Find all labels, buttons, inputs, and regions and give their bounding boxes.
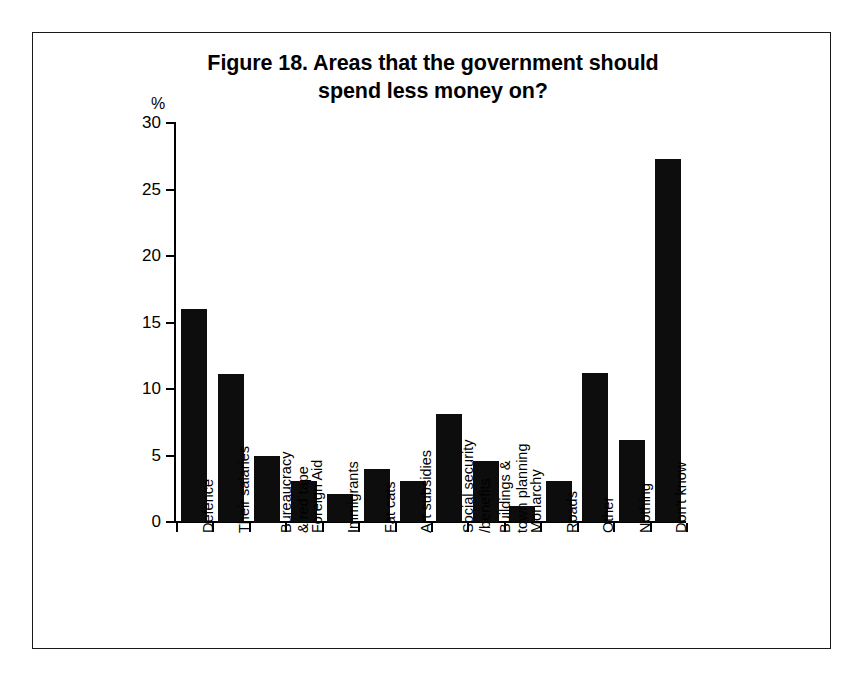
y-axis-tick-label: 5 xyxy=(117,447,161,464)
x-axis-category-label: Other xyxy=(600,497,617,533)
x-axis-category-label: Don't know xyxy=(673,462,690,533)
y-axis-tick-label: 25 xyxy=(117,181,161,198)
figure-frame: Figure 18. Areas that the government sho… xyxy=(32,32,831,649)
x-axis-tick xyxy=(176,523,178,532)
y-axis-tick xyxy=(166,255,176,257)
plot-area: % 051015202530 DefenceTheir salariesBure… xyxy=(33,33,832,650)
x-axis-category-label: Nothing xyxy=(637,483,654,533)
x-axis-category-label: Bureaucracy & red tape xyxy=(278,452,311,533)
y-axis-tick xyxy=(166,455,176,457)
y-axis-tick xyxy=(166,122,176,124)
y-axis-unit-label: % xyxy=(151,95,165,113)
x-axis-category-label: Monarchy xyxy=(528,469,545,533)
y-axis-tick xyxy=(166,322,176,324)
y-axis-tick-label: 10 xyxy=(117,380,161,397)
x-axis-category-label: Their salaries xyxy=(236,446,253,533)
x-axis-category-label: Foreign Aid xyxy=(309,460,326,533)
y-axis-tick xyxy=(166,521,176,523)
bar xyxy=(254,456,280,523)
x-axis-category-label: Buildings & town planning xyxy=(497,444,530,534)
x-axis-category-label: Defence xyxy=(200,479,217,533)
x-axis-category-label: Fat cats xyxy=(382,481,399,533)
x-axis-category-label: Social security /benefits xyxy=(460,440,493,533)
x-axis-category-label: Art subsidies xyxy=(418,450,435,533)
y-axis-tick-label: 20 xyxy=(117,247,161,264)
y-axis-tick-label: 30 xyxy=(117,114,161,131)
x-axis-category-label: Immigrants xyxy=(345,461,362,533)
y-axis-tick xyxy=(166,189,176,191)
y-axis-tick-label: 0 xyxy=(117,513,161,530)
y-axis-tick xyxy=(166,388,176,390)
bar xyxy=(436,414,462,522)
y-axis-tick-label: 15 xyxy=(117,314,161,331)
x-axis-category-label: Roads xyxy=(564,491,581,533)
